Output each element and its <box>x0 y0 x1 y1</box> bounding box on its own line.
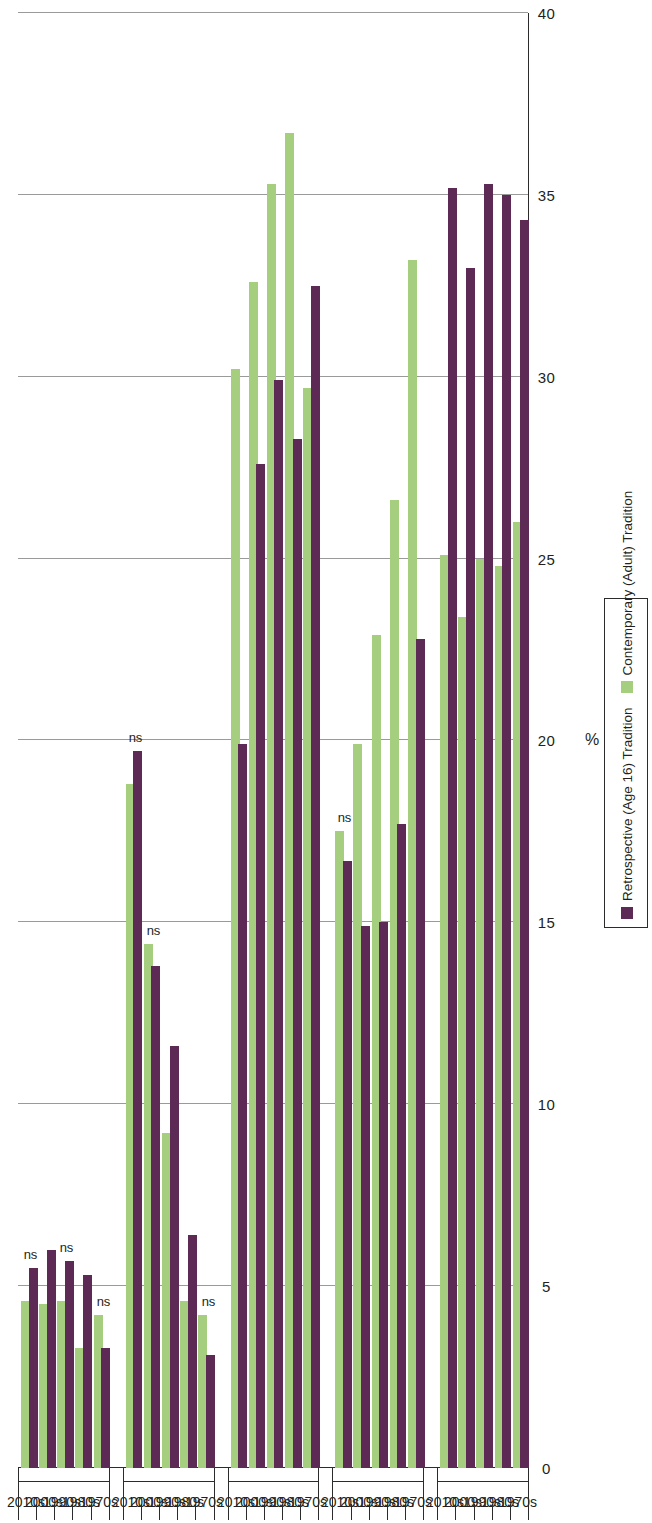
bar-retrospective <box>238 744 247 1468</box>
gridline-40 <box>18 12 528 13</box>
bar-retrospective <box>188 1235 197 1468</box>
bar-retrospective <box>379 922 388 1468</box>
value-tick-label: 0 <box>527 1460 567 1477</box>
bar-retrospective <box>133 751 142 1468</box>
chart-stage: 4035302520151050%ns2010s2000sns1990s1980… <box>0 0 652 1523</box>
bar-retrospective <box>206 1355 215 1468</box>
bar-retrospective <box>65 1261 74 1468</box>
bar-retrospective <box>466 268 475 1468</box>
value-tick-label: 40 <box>527 5 567 22</box>
bar-retrospective <box>47 1250 56 1468</box>
decade-separator <box>195 1504 196 1520</box>
category-axis-line <box>228 1481 319 1482</box>
legend-item: Contemporary (Adult) Tradition <box>620 491 635 694</box>
bar-retrospective <box>29 1268 38 1468</box>
category-axis-line <box>437 1481 528 1482</box>
decade-separator <box>405 1504 406 1520</box>
value-tick-label: 5 <box>527 1278 567 1295</box>
value-tick-label: 35 <box>527 186 567 203</box>
legend-label: Contemporary (Adult) Tradition <box>620 491 635 676</box>
bar-retrospective <box>484 184 493 1468</box>
group-bracket <box>18 1468 19 1520</box>
group-bracket <box>332 1468 333 1520</box>
ns-annotation: ns <box>91 1294 115 1309</box>
legend-item: Retrospective (Age 16) Tradition <box>620 707 635 919</box>
bar-retrospective <box>502 195 511 1468</box>
ns-annotation: ns <box>19 1246 43 1261</box>
group-bracket <box>123 1468 124 1520</box>
bar-retrospective <box>520 220 529 1468</box>
ns-annotation: ns <box>142 923 166 938</box>
group-bracket <box>228 1468 229 1520</box>
category-axis-line <box>18 1481 109 1482</box>
bar-retrospective <box>170 1046 179 1468</box>
bar-retrospective <box>416 639 425 1468</box>
ns-annotation: ns <box>55 1239 79 1254</box>
bar-retrospective <box>343 861 352 1468</box>
bar-retrospective <box>397 824 406 1468</box>
bar-retrospective <box>448 188 457 1468</box>
decade-separator <box>300 1504 301 1520</box>
group-bracket <box>528 1468 529 1520</box>
value-tick-label: 15 <box>527 914 567 931</box>
bar-retrospective <box>151 966 160 1468</box>
bar-retrospective <box>256 464 265 1468</box>
ns-annotation: ns <box>123 730 147 745</box>
chart-legend: Retrospective (Age 16) TraditionContempo… <box>604 598 648 928</box>
decade-label-1970s: 1970s <box>483 1494 553 1510</box>
plot-area: 4035302520151050%ns2010s2000sns1990s1980… <box>18 13 528 1468</box>
group-bracket <box>437 1468 438 1520</box>
decade-separator <box>91 1504 92 1520</box>
bar-retrospective <box>101 1348 110 1468</box>
value-tick-label: 10 <box>527 1096 567 1113</box>
legend-label: Retrospective (Age 16) Tradition <box>620 707 635 901</box>
legend-swatch-icon <box>621 681 633 693</box>
value-tick-label: 30 <box>527 368 567 385</box>
bar-retrospective <box>361 926 370 1468</box>
bar-retrospective <box>311 286 320 1468</box>
bar-retrospective <box>293 439 302 1468</box>
decade-separator <box>510 1504 511 1520</box>
bar-retrospective <box>274 380 283 1468</box>
ns-annotation: ns <box>196 1294 220 1309</box>
value-tick-label: 25 <box>527 550 567 567</box>
category-axis-line <box>332 1481 423 1482</box>
category-axis-line <box>123 1481 214 1482</box>
legend-swatch-icon <box>621 907 633 919</box>
